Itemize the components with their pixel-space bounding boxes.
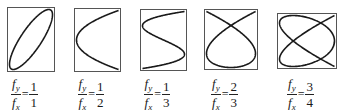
ratio-label-1-3: fyfx = 13 (144, 78, 171, 110)
lissajous-curve-1-2 (74, 8, 121, 72)
ratio-label-1-2: fyfx = 12 (78, 78, 105, 110)
ratio-label-2-3: fyfx = 23 (211, 78, 238, 110)
lissajous-panel-3-4 (277, 13, 337, 69)
lissajous-curve-3-4 (277, 13, 337, 69)
lissajous-curve-2-3 (204, 9, 258, 70)
lissajous-panel-1-2 (74, 8, 121, 72)
lissajous-curve-1-3 (140, 9, 187, 71)
lissajous-panel-2-3 (204, 9, 258, 70)
lissajous-curve-1-1 (7, 7, 55, 72)
ratio-label-3-4: fyfx = 34 (287, 78, 314, 110)
lissajous-panel-1-3 (140, 9, 187, 71)
ratio-label-1-1: fyfx = 11 (11, 78, 38, 110)
lissajous-panel-1-1 (7, 7, 55, 72)
